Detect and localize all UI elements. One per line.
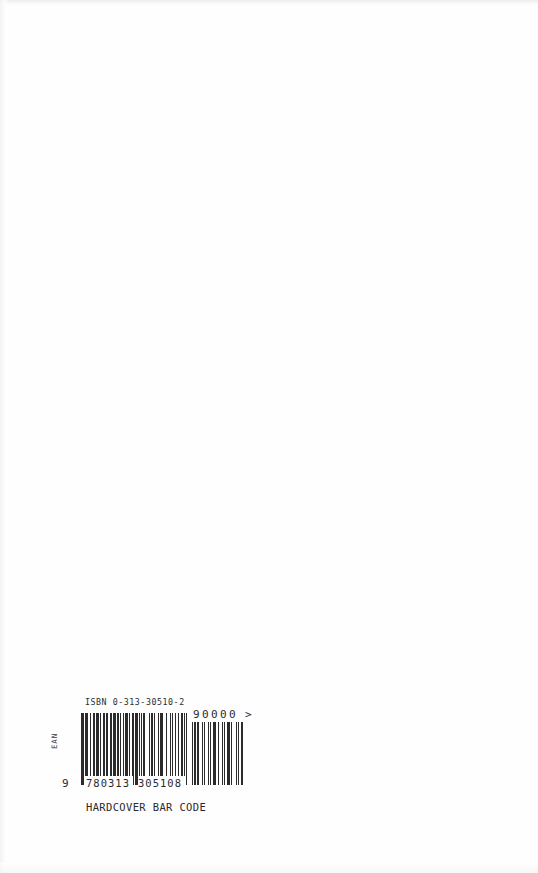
- addon-value-text: 90000: [193, 708, 238, 721]
- ean13-barcode-symbol: [81, 713, 188, 785]
- addon-bars: [192, 722, 243, 785]
- book-back-cover-page: ISBN 0-313-30510-2 EAN 9 780313 305108 9…: [0, 0, 538, 873]
- ean-lead-digit: 9: [62, 777, 69, 790]
- scan-edge-left: [0, 0, 7, 873]
- addon-barcode-symbol: [192, 722, 243, 785]
- ean-digits-right-group: 305108: [138, 777, 182, 790]
- scan-edge-top: [0, 0, 538, 6]
- barcode-block: ISBN 0-313-30510-2 EAN 9 780313 305108 9…: [52, 697, 267, 827]
- addon-terminator-caret: >: [245, 708, 252, 721]
- ean13-bars: [81, 713, 188, 785]
- isbn-label: ISBN 0-313-30510-2: [85, 697, 185, 707]
- ean-digits-left-group: 780313: [86, 777, 130, 790]
- ean-symbology-label: EAN: [50, 733, 59, 749]
- scan-edge-bottom: [0, 863, 538, 873]
- barcode-caption: HARDCOVER BAR CODE: [86, 801, 206, 814]
